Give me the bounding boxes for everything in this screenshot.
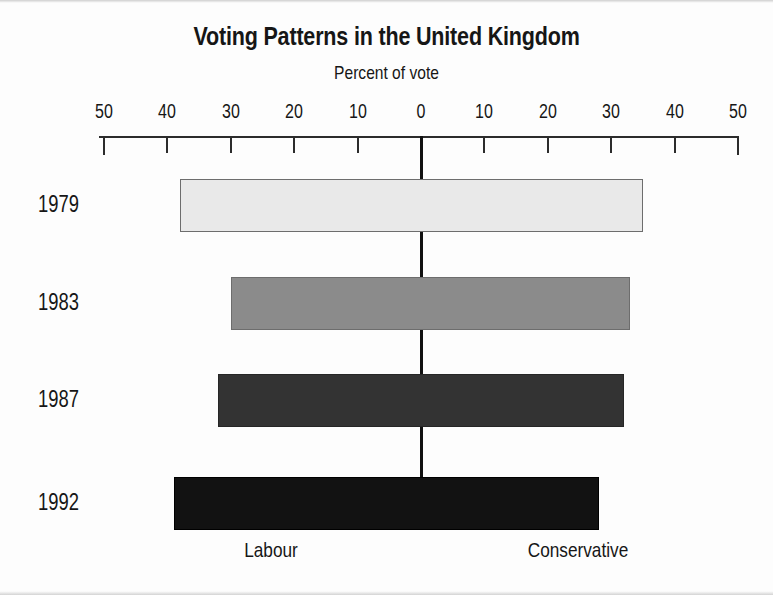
year-label-1992: 1992 (38, 489, 79, 516)
bar-1987 (218, 374, 624, 427)
axis-tick (230, 136, 232, 153)
axis-tick-label: 30 (602, 100, 620, 123)
chart-figure: Voting Patterns in the United Kingdom Pe… (0, 0, 773, 595)
page-edge-bottom (0, 591, 773, 595)
x-axis-line (99, 136, 739, 138)
year-label-1979: 1979 (38, 191, 79, 218)
axis-tick (483, 136, 485, 153)
bar-1983 (231, 277, 630, 330)
axis-tick (674, 136, 676, 153)
category-label-conservative: Conservative (528, 538, 629, 562)
category-label-labour: Labour (244, 538, 298, 562)
year-label-1987: 1987 (38, 386, 79, 413)
axis-tick (166, 136, 168, 153)
axis-tick (547, 136, 549, 153)
year-label-1983: 1983 (38, 289, 79, 316)
axis-tick-label: 50 (95, 100, 113, 123)
axis-tick-label: 40 (158, 100, 176, 123)
bar-1979 (180, 179, 643, 232)
axis-tick (103, 136, 105, 155)
axis-tick (610, 136, 612, 153)
axis-tick (737, 136, 739, 155)
axis-tick-label: 10 (475, 100, 493, 123)
bar-1992 (174, 477, 599, 530)
axis-tick-label: 20 (539, 100, 557, 123)
axis-tick-label: 40 (666, 100, 684, 123)
axis-tick-label: 30 (222, 100, 240, 123)
axis-tick-label: 0 (417, 100, 426, 123)
axis-tick-label: 50 (729, 100, 747, 123)
axis-tick-label: 20 (285, 100, 303, 123)
axis-tick (357, 136, 359, 153)
axis-tick (293, 136, 295, 153)
axis-tick-label: 10 (349, 100, 367, 123)
